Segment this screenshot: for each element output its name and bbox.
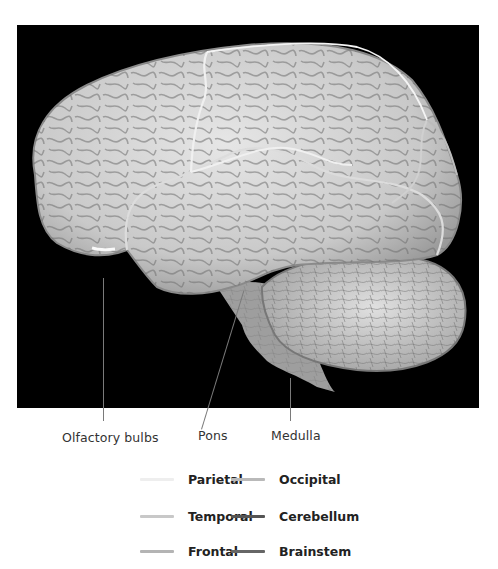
cerebrum-region [33,43,461,294]
legend-item-frontal: Frontal [140,542,238,560]
occipital-swatch [231,478,265,481]
legend-label: Occipital [279,472,341,487]
legend-item-brainstem: Brainstem [231,542,351,560]
lobe-legend: Parietal Temporal Frontal Occipital Cere… [140,470,380,560]
callout-medulla: Medulla [271,428,321,443]
brainstem-swatch [231,550,265,553]
olfactory-bulbs-leader [103,278,104,421]
legend-label: Brainstem [279,544,351,559]
parietal-swatch [140,478,174,481]
cerebellum-swatch [231,515,265,518]
legend-item-parietal: Parietal [140,470,243,488]
frontal-swatch [140,550,174,553]
legend-item-occipital: Occipital [231,470,341,488]
brain-image-panel [17,25,479,408]
callout-pons: Pons [198,428,228,443]
brain-illustration [17,25,479,408]
legend-label: Cerebellum [279,509,359,524]
callout-olfactory-bulbs: Olfactory bulbs [62,430,159,445]
legend-item-cerebellum: Cerebellum [231,507,359,525]
medulla-leader [290,378,291,421]
temporal-swatch [140,515,174,518]
